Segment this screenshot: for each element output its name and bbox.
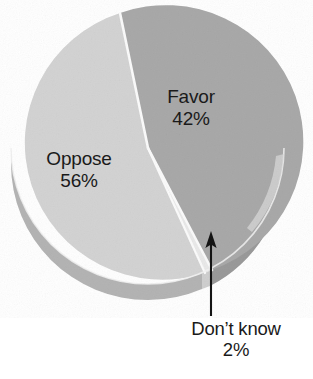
pie-chart-figure: Favor 42% Oppose 56% Don’t know 2%	[0, 0, 313, 379]
pie-chart-svg	[0, 0, 313, 379]
